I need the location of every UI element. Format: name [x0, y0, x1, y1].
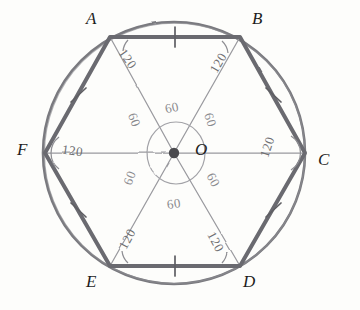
figure-canvas: [0, 0, 360, 310]
interior-angle-F: 120: [61, 142, 84, 161]
centre-label-O: O: [195, 140, 208, 160]
radius-OE: [110, 153, 174, 266]
centre-point-dot: [169, 148, 179, 158]
vertex-label-E: E: [86, 272, 97, 292]
vertex-label-C: C: [318, 150, 330, 170]
geometry-figure: A B C D E F O 120 120 120 120 120 120 60…: [0, 0, 360, 310]
central-angle-DOE: 60: [166, 195, 182, 213]
arc-E: [122, 251, 128, 263]
vertex-label-A: A: [86, 9, 97, 29]
radius-OD: [174, 153, 240, 266]
vertex-label-D: D: [243, 272, 256, 292]
vertex-label-B: B: [252, 9, 263, 29]
arc-B: [222, 41, 228, 53]
central-angle-AOB: 60: [163, 99, 180, 118]
radius-OB: [174, 37, 240, 153]
vertex-label-F: F: [17, 140, 28, 160]
arc-D: [222, 252, 227, 263]
